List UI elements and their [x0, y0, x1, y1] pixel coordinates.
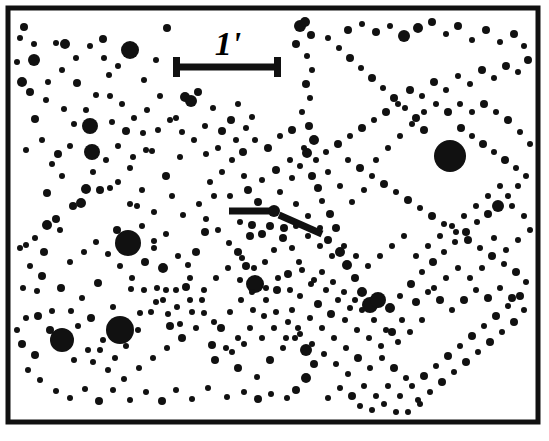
star-dot — [377, 253, 383, 259]
star-dot — [96, 186, 104, 194]
star-dot — [18, 340, 26, 348]
star-dot — [323, 287, 329, 293]
star-dot — [252, 137, 258, 143]
star-dot — [480, 100, 488, 108]
star-dot — [371, 117, 377, 123]
star-dot — [53, 40, 59, 46]
star-dot — [510, 318, 518, 326]
star-dot — [317, 243, 323, 249]
star-dot — [54, 150, 62, 158]
star-dot — [304, 53, 310, 59]
star-dot — [173, 287, 179, 293]
star-dot — [397, 293, 403, 299]
star-dot — [249, 289, 255, 295]
star-dot — [295, 325, 301, 331]
star-dot — [151, 245, 157, 251]
star-dot — [113, 226, 121, 234]
star-dot — [473, 287, 479, 293]
star-dot — [106, 316, 134, 344]
star-dot — [467, 275, 473, 281]
star-dot — [271, 325, 277, 331]
star-dot — [153, 57, 159, 63]
star-dot — [173, 115, 179, 121]
star-dot — [163, 287, 169, 293]
star-dot — [169, 193, 175, 199]
star-dot — [175, 253, 181, 259]
star-dot — [297, 163, 303, 169]
star-dot — [262, 259, 268, 265]
star-dot — [37, 377, 43, 383]
star-dot — [425, 243, 431, 249]
star-dot — [398, 30, 410, 42]
star-dot — [246, 232, 254, 240]
star-dot — [516, 292, 524, 300]
star-dot — [227, 116, 235, 124]
star-dot — [486, 338, 494, 346]
star-dot — [453, 229, 459, 235]
star-dot — [59, 173, 65, 179]
star-dot — [93, 239, 99, 245]
star-dot — [324, 236, 332, 244]
star-dot — [344, 26, 352, 34]
star-dot — [309, 341, 315, 347]
star-dot — [455, 73, 461, 79]
star-dot — [501, 156, 509, 164]
star-dot — [434, 140, 466, 172]
star-dot — [361, 187, 367, 193]
star-dot — [474, 219, 480, 225]
star-dot — [342, 260, 352, 270]
star-dot — [177, 154, 183, 160]
star-dot — [444, 352, 452, 360]
star-dot — [263, 297, 269, 303]
star-dot — [280, 345, 286, 351]
star-dot — [497, 183, 503, 189]
finder-chart-canvas: 1' — [0, 0, 549, 441]
star-dot — [356, 164, 364, 172]
star-dot — [201, 228, 209, 236]
star-dot — [271, 247, 277, 253]
star-dot — [370, 292, 386, 308]
star-dot — [61, 106, 67, 112]
star-dot — [413, 23, 423, 33]
star-dot — [307, 95, 313, 101]
star-dot — [23, 315, 29, 321]
star-dot — [469, 37, 475, 43]
star-dot — [49, 161, 55, 167]
star-dot — [299, 109, 305, 115]
star-dot — [358, 65, 364, 71]
star-dot — [49, 308, 55, 314]
star-dot — [455, 265, 461, 271]
star-dot — [521, 307, 527, 313]
star-dot — [359, 307, 365, 313]
star-dot — [284, 270, 292, 278]
star-dot — [199, 297, 205, 303]
star-dot — [259, 177, 265, 183]
star-dot — [229, 349, 235, 355]
star-dot — [412, 114, 420, 122]
star-dot — [31, 41, 37, 47]
star-dot — [211, 193, 217, 199]
star-dot — [219, 169, 225, 175]
star-dot — [373, 393, 379, 399]
star-dot — [127, 165, 133, 171]
star-dot — [117, 263, 123, 269]
star-dot — [273, 309, 279, 315]
star-dot — [87, 43, 93, 49]
star-dot — [284, 395, 290, 401]
star-dot — [359, 21, 365, 27]
star-dot — [409, 383, 415, 389]
star-dot — [305, 122, 313, 130]
star-dot — [313, 157, 319, 163]
star-dot — [28, 54, 40, 66]
star-dot — [430, 78, 438, 86]
star-dot — [185, 95, 197, 107]
star-dot — [218, 127, 226, 135]
star-dot — [337, 385, 343, 391]
star-dot — [319, 198, 325, 204]
star-dot — [211, 356, 219, 364]
star-dot — [246, 275, 264, 293]
star-dot — [342, 317, 348, 323]
star-dot — [462, 228, 470, 236]
star-dot — [491, 235, 497, 241]
star-dot — [501, 261, 507, 267]
